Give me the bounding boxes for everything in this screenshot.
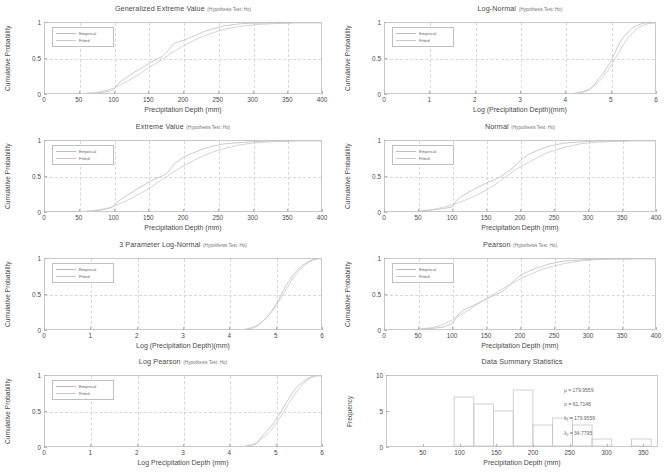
x-tick-mark [114,91,115,94]
legend-entry-label: Fitted [419,156,429,161]
y-tick-mark [384,258,387,259]
x-tick-label: 4 [564,96,568,103]
legend-log-normal[interactable]: EmpiricalFitted [392,27,454,47]
y-tick-mark [44,447,47,448]
legend-entry-empirical: Empirical [56,266,110,273]
y-tick-mark [384,140,387,141]
y-tick-mark [384,294,387,295]
x-tick-mark [183,209,184,212]
legend-entry-label: Empirical [419,149,436,154]
x-tick-label: 100 [108,214,119,221]
y-tick-label: 5 [364,408,383,415]
summary-statistics-annotations: μ = 179.9559σ = 61.7148λ1 = 179.9559λ2 =… [564,387,595,445]
x-tick-mark [418,327,419,330]
x-tick-label: 200 [178,96,189,103]
y-tick-label: 10 [364,372,383,379]
x-tick-label: 3 [181,449,185,456]
x-tick-mark [460,444,461,447]
series-line-fitted [245,259,321,329]
x-tick-mark [322,327,323,330]
x-tick-mark [588,209,589,212]
y-axis-label: Cumulative Probability [4,140,21,212]
x-tick-mark [253,209,254,212]
x-tick-label: 300 [583,332,594,339]
y-tick-label: 1 [362,19,381,26]
x-axis-label: Precipitation Depth (mm) [44,106,322,113]
legend-swatch-line-icon [396,33,416,34]
panel-title-log-pearson: Log Pearson (Hypothesis Test: Ho) [4,357,362,366]
x-axis-label: Precipitation Depth (mm) [384,342,656,349]
series-line-fitted [574,23,655,93]
legend-normal[interactable]: EmpiricalFitted [392,145,454,165]
x-tick-label: 150 [143,214,154,221]
legend-log-pearson[interactable]: EmpiricalFitted [52,380,114,400]
legend-entry-fitted: Fitted [56,390,110,397]
x-axis-label: Precipitation Depth (mm) [384,224,656,231]
legend-swatch-line-icon [56,386,76,387]
plot-panel-3-parameter-log-normal: 3 Parameter Log-Normal (Hypothesis Test:… [0,240,340,354]
y-tick-mark [44,94,47,95]
panel-title-normal: Normal (Hypothesis Test: Ho) [344,122,671,131]
x-tick-mark [656,209,657,212]
series-line-fitted [419,259,655,329]
legend-entry-label: Empirical [419,31,436,36]
y-tick-label: 0.5 [22,55,41,62]
legend-extreme-value[interactable]: EmpiricalFitted [52,145,114,165]
y-tick-label: 0 [22,91,41,98]
plot-panel-log-normal: Log-Normal (Hypothesis Test: Ho)01234560… [340,4,671,118]
x-tick-label: 400 [317,214,328,221]
x-axis-label: Log Precipitation Depth (mm) [44,459,322,466]
x-tick-label: 250 [564,449,575,456]
x-tick-label: 1 [89,449,93,456]
x-tick-label: 250 [212,214,223,221]
panel-title-data-summary-statistics: Data Summary Statistics [346,357,671,366]
series-line-empirical [578,23,649,93]
legend-swatch-line-icon [56,276,76,277]
y-tick-mark [384,176,387,177]
plot-panel-data-summary-statistics: Data Summary Statistics50100150200250300… [340,357,671,471]
x-tick-label: 400 [317,96,328,103]
plot-area-data-summary-statistics [387,376,657,446]
x-tick-label: 100 [108,96,119,103]
x-tick-mark [137,444,138,447]
y-tick-label: 0.5 [22,408,41,415]
panel-hypothesis-label: (Hypothesis Test: Ho) [184,125,230,130]
x-tick-label: 100 [447,214,458,221]
x-tick-mark [276,444,277,447]
x-axis-label: Precipitation Depth (mm) [44,224,322,231]
y-tick-mark [384,58,387,59]
x-tick-mark [253,91,254,94]
x-tick-mark [486,209,487,212]
legend-entry-fitted: Fitted [56,155,110,162]
series-line-empirical [93,141,294,211]
x-tick-mark [622,327,623,330]
x-tick-label: 350 [638,449,649,456]
x-tick-label: 6 [320,332,324,339]
y-tick-mark [384,94,387,95]
legend-3-parameter-log-normal[interactable]: EmpiricalFitted [52,263,114,283]
y-tick-label: 0.5 [362,55,381,62]
x-tick-label: 6 [654,96,658,103]
legend-swatch-line-icon [56,269,76,270]
x-tick-mark [183,327,184,330]
legend-entry-label: Empirical [419,267,436,272]
legend-pearson[interactable]: EmpiricalFitted [392,263,454,283]
x-tick-label: 2 [135,332,139,339]
legend-entry-empirical: Empirical [396,266,450,273]
panel-hypothesis-label: (Hypothesis Test: Ho) [200,243,246,248]
x-tick-mark [452,209,453,212]
x-tick-label: 200 [515,332,526,339]
panel-hypothesis-label: (Hypothesis Test: Ho) [511,243,557,248]
y-tick-mark [386,375,389,376]
y-tick-mark [44,411,47,412]
x-tick-mark [643,444,644,447]
series-line-empirical [247,376,316,446]
x-tick-mark [137,327,138,330]
x-tick-mark [475,91,476,94]
legend-generalized-extreme-value[interactable]: EmpiricalFitted [52,27,114,47]
x-tick-label: 150 [481,214,492,221]
x-tick-label: 0 [382,332,386,339]
x-tick-label: 350 [617,214,628,221]
x-tick-mark [486,327,487,330]
panel-hypothesis-label: (Hypothesis Test: Ho) [205,7,251,12]
